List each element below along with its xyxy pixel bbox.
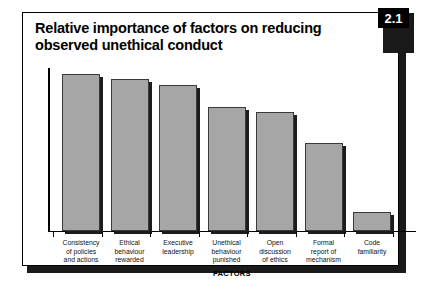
- x-axis-tick: [247, 232, 248, 237]
- bar-series: [48, 68, 416, 231]
- figure-title: Relative importance of factors on reduci…: [35, 20, 355, 54]
- x-axis-category-label: Codefamiliarity: [345, 239, 399, 256]
- x-axis-category-label: Opendiscussionof ethics: [248, 239, 302, 265]
- figure-number-badge: 2.1: [378, 8, 409, 28]
- x-axis-tick: [102, 232, 103, 237]
- category-label-line: Code: [345, 239, 399, 248]
- x-axis-category-label: Formalreport ofmechanism: [297, 239, 351, 265]
- bar-item: [305, 143, 343, 231]
- bar-item: [256, 112, 294, 231]
- figure-panel: Relative importance of factors on reduci…: [0, 0, 427, 297]
- bar-rect: [208, 107, 246, 231]
- category-label-line: discussion: [248, 248, 302, 257]
- bar-item: [159, 85, 197, 231]
- category-label-line: behaviour: [103, 248, 157, 257]
- x-axis-category-labels: Consistencyof policiesand actionsEthical…: [48, 239, 416, 271]
- category-label-line: of policies: [54, 248, 108, 257]
- bar-rect: [111, 79, 149, 231]
- figure-title-line-2: observed unethical conduct: [35, 37, 355, 54]
- x-axis-tick: [53, 232, 54, 237]
- bar-rect: [353, 212, 391, 231]
- category-label-line: familiarity: [345, 248, 399, 257]
- category-label-line: mechanism: [297, 256, 351, 265]
- x-axis-category-label: Consistencyof policiesand actions: [54, 239, 108, 265]
- x-axis-tick: [150, 232, 151, 237]
- category-label-line: report of: [297, 248, 351, 257]
- figure-title-line-1: Relative importance of factors on reduci…: [35, 20, 355, 37]
- category-label-line: Ethical: [103, 239, 157, 248]
- x-axis-tick: [393, 232, 394, 237]
- x-axis-title: FACTORS: [48, 269, 416, 278]
- category-label-line: Unethical: [200, 239, 254, 248]
- x-axis-category-label: Ethicalbehaviourrewarded: [103, 239, 157, 265]
- bar-item: [353, 212, 391, 231]
- bar-rect: [256, 112, 294, 231]
- category-label-line: behaviour: [200, 248, 254, 257]
- x-axis-tick: [296, 232, 297, 237]
- bar-rect: [305, 143, 343, 231]
- bar-item: [111, 79, 149, 231]
- category-label-line: rewarded: [103, 256, 157, 265]
- category-label-line: Open: [248, 239, 302, 248]
- bar-item: [62, 74, 100, 231]
- category-label-line: punished: [200, 256, 254, 265]
- category-label-line: Executive: [151, 239, 205, 248]
- category-label-line: Consistency: [54, 239, 108, 248]
- x-axis-tick: [344, 232, 345, 237]
- bar-item: [208, 107, 246, 231]
- bar-rect: [62, 74, 100, 231]
- x-axis-tick: [199, 232, 200, 237]
- x-axis-category-label: Unethicalbehaviourpunished: [200, 239, 254, 265]
- category-label-line: and actions: [54, 256, 108, 265]
- x-axis-ticks: [48, 232, 416, 237]
- category-label-line: leadership: [151, 248, 205, 257]
- figure-frame: Relative importance of factors on reduci…: [22, 12, 399, 266]
- category-label-line: Formal: [297, 239, 351, 248]
- category-label-line: of ethics: [248, 256, 302, 265]
- bar-rect: [159, 85, 197, 231]
- x-axis-category-label: Executiveleadership: [151, 239, 205, 256]
- plot-area: [48, 68, 416, 232]
